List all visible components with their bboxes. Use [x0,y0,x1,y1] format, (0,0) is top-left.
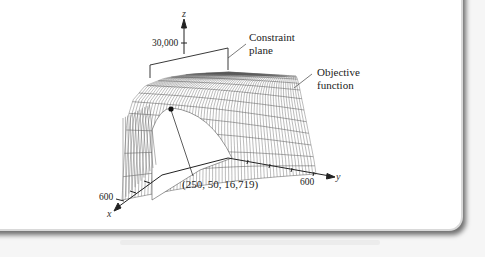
max-point-label: (250, 50, 16,719) [182,178,258,191]
z-axis-label: z [181,8,186,19]
objective-function-label-2: function [317,79,354,91]
z-tick-label: 30,000 [152,38,178,48]
constraint-plane-label-2: plane [249,44,273,56]
objective-function-label-1: Objective [317,66,360,78]
z-axis [181,19,187,54]
max-point-marker [168,106,173,111]
x-axis-label: x [106,208,112,219]
constraint-plane-label-1: Constraint [249,31,295,43]
y-axis-label: y [335,171,341,182]
surface-plot-figure: z 30,000 600 x 600 y (250, 50, 16,719) C… [0,0,485,257]
objective-leader-line [294,74,312,88]
constraint-leader-line [228,44,246,58]
y-axis [228,158,335,179]
x-tick-label: 600 [99,192,114,202]
y-tick-label: 600 [300,177,315,187]
